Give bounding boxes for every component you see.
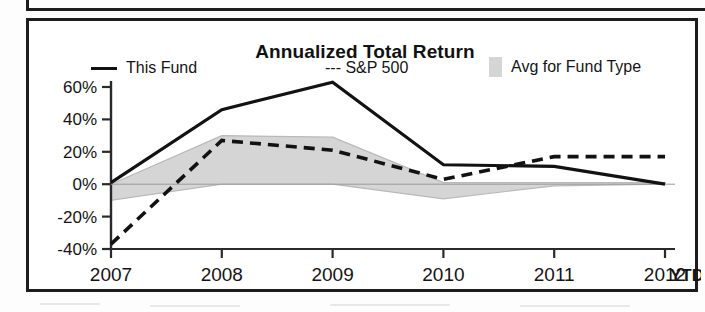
x-tick-label: 2009: [311, 264, 353, 285]
x-tick-label: 2010: [422, 264, 464, 285]
x-tick-label: 2008: [201, 264, 243, 285]
y-tick-label: -20%: [57, 208, 97, 227]
plot-area: 60%40%20%0%-20%-40%200720082009201020112…: [29, 21, 701, 295]
x-axis-ytd-label: YTD: [670, 266, 701, 285]
scan-artifact: [520, 305, 630, 307]
y-tick-label: 60%: [63, 78, 97, 97]
page-top-box-edge: [26, 0, 705, 11]
y-tick-label: 40%: [63, 110, 97, 129]
scan-artifact: [330, 304, 450, 306]
scan-artifact: [40, 303, 100, 305]
chart-svg: 60%40%20%0%-20%-40%200720082009201020112…: [29, 21, 701, 295]
screenshot-page: Annualized Total Return This Fund --- S&…: [0, 0, 705, 312]
y-tick-label: 20%: [63, 143, 97, 162]
scan-artifact: [150, 305, 240, 307]
y-tick-label: -40%: [57, 240, 97, 259]
x-tick-label: 2007: [90, 264, 132, 285]
x-tick-label: 2011: [534, 264, 575, 285]
chart-panel: Annualized Total Return This Fund --- S&…: [26, 18, 698, 292]
y-tick-label: 0%: [72, 175, 97, 194]
